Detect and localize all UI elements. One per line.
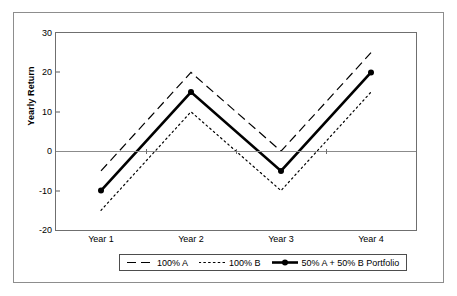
y-axis-tick-label: -20 <box>39 225 52 235</box>
y-axis-tick-label: 20 <box>42 67 52 77</box>
chart-legend: 100% A100% B50% A + 50% B Portfolio <box>119 254 407 271</box>
y-axis-title: Yearly Return <box>26 51 36 141</box>
x-axis-tick-mark <box>326 149 327 154</box>
figure-frame: Yearly Return 3020100-10-20Year 1Year 2Y… <box>13 12 444 283</box>
y-axis-tick-label: 30 <box>42 28 52 38</box>
series-plot <box>56 33 416 230</box>
legend-item-label: 100% A <box>157 258 188 268</box>
legend-item-label: 100% B <box>229 258 261 268</box>
series-line <box>101 72 371 190</box>
x-axis-tick-label: Year 3 <box>268 234 294 244</box>
legend-item[interactable]: 100% A <box>127 258 188 268</box>
x-axis-tick-mark <box>236 149 237 154</box>
x-axis-tick-label: Year 1 <box>88 234 114 244</box>
legend-item-label: 50% A + 50% B Portfolio <box>302 258 400 268</box>
legend-item[interactable]: 100% B <box>199 258 261 268</box>
series-data-point <box>368 69 374 75</box>
plot-frame: 3020100-10-20Year 1Year 2Year 3Year 4 <box>55 32 417 231</box>
y-axis-tick-label: 10 <box>42 107 52 117</box>
dotted-line-swatch <box>199 258 225 267</box>
solid-line-marker-swatch <box>272 258 298 267</box>
y-axis-tick-mark <box>56 72 60 73</box>
series-data-point <box>188 89 194 95</box>
x-axis-tick-label: Year 2 <box>178 234 204 244</box>
x-axis-tick-mark <box>146 149 147 154</box>
y-axis-tick-label: 0 <box>47 146 52 156</box>
series-data-point <box>278 168 284 174</box>
y-axis-tick-mark <box>56 190 60 191</box>
legend-item[interactable]: 50% A + 50% B Portfolio <box>272 258 400 268</box>
dashed-line-swatch <box>127 258 153 267</box>
chart-area: Yearly Return 3020100-10-20Year 1Year 2Y… <box>14 13 445 284</box>
y-axis-tick-label: -10 <box>39 186 52 196</box>
x-axis-tick-label: Year 4 <box>358 234 384 244</box>
y-axis-tick-mark <box>56 111 60 112</box>
series-data-point <box>98 188 104 194</box>
